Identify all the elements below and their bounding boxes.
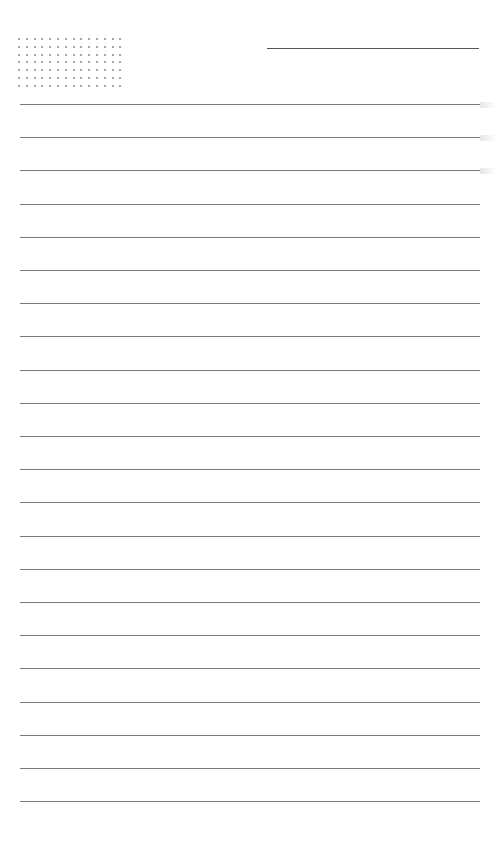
dot bbox=[119, 85, 121, 87]
dot bbox=[49, 46, 51, 48]
ruled-line bbox=[20, 801, 480, 802]
ruled-line bbox=[20, 270, 480, 271]
ruled-line bbox=[20, 768, 480, 769]
dot bbox=[96, 61, 98, 63]
dot bbox=[26, 46, 28, 48]
dot bbox=[57, 85, 59, 87]
dot bbox=[49, 54, 51, 56]
ruled-line bbox=[20, 569, 480, 570]
ruled-line bbox=[20, 469, 480, 470]
ruled-line bbox=[20, 204, 480, 205]
dot bbox=[34, 85, 36, 87]
dot bbox=[80, 46, 82, 48]
ruled-line bbox=[20, 436, 480, 437]
dot bbox=[41, 61, 43, 63]
dot bbox=[88, 46, 90, 48]
dot bbox=[80, 38, 82, 40]
dot bbox=[73, 85, 75, 87]
dot bbox=[34, 38, 36, 40]
dot bbox=[104, 54, 106, 56]
dot bbox=[18, 77, 20, 79]
dot bbox=[65, 54, 67, 56]
ruled-line bbox=[20, 536, 480, 537]
dot bbox=[34, 77, 36, 79]
dot bbox=[112, 77, 114, 79]
dot bbox=[49, 61, 51, 63]
dot bbox=[80, 85, 82, 87]
dot bbox=[49, 85, 51, 87]
dot bbox=[80, 69, 82, 71]
edge-shadow bbox=[480, 168, 497, 174]
dot bbox=[73, 77, 75, 79]
dot bbox=[41, 77, 43, 79]
dot bbox=[41, 69, 43, 71]
dot bbox=[49, 77, 51, 79]
dot bbox=[34, 46, 36, 48]
ruled-line bbox=[20, 502, 480, 503]
ruled-line bbox=[20, 702, 480, 703]
ruled-line bbox=[20, 303, 480, 304]
dot bbox=[88, 77, 90, 79]
dot bbox=[88, 38, 90, 40]
dot bbox=[34, 69, 36, 71]
dot bbox=[112, 38, 114, 40]
ruled-line bbox=[20, 170, 480, 171]
dot bbox=[18, 61, 20, 63]
dot bbox=[57, 61, 59, 63]
dot bbox=[65, 61, 67, 63]
title-line bbox=[267, 48, 479, 49]
dot bbox=[41, 54, 43, 56]
dot bbox=[26, 38, 28, 40]
dot bbox=[96, 69, 98, 71]
dot bbox=[104, 46, 106, 48]
dot bbox=[26, 69, 28, 71]
ruled-line bbox=[20, 137, 480, 138]
dot bbox=[65, 69, 67, 71]
dot bbox=[119, 38, 121, 40]
dot bbox=[65, 85, 67, 87]
dot bbox=[41, 85, 43, 87]
dot bbox=[112, 61, 114, 63]
dot bbox=[65, 38, 67, 40]
dot bbox=[49, 69, 51, 71]
dot bbox=[104, 77, 106, 79]
dot bbox=[57, 54, 59, 56]
dot bbox=[96, 54, 98, 56]
ruled-line bbox=[20, 635, 480, 636]
dot bbox=[49, 38, 51, 40]
dot bbox=[57, 46, 59, 48]
dot bbox=[96, 38, 98, 40]
ruled-line bbox=[20, 237, 480, 238]
dot bbox=[26, 77, 28, 79]
dot bbox=[96, 85, 98, 87]
dot bbox=[119, 69, 121, 71]
dot bbox=[18, 85, 20, 87]
dot bbox=[73, 54, 75, 56]
dot bbox=[57, 69, 59, 71]
edge-shadow bbox=[480, 102, 497, 108]
dot bbox=[73, 69, 75, 71]
dot bbox=[96, 77, 98, 79]
dot bbox=[34, 61, 36, 63]
dot bbox=[80, 54, 82, 56]
ruled-line bbox=[20, 668, 480, 669]
dot bbox=[41, 38, 43, 40]
dot bbox=[88, 85, 90, 87]
dot bbox=[112, 54, 114, 56]
dot bbox=[26, 54, 28, 56]
dot bbox=[96, 46, 98, 48]
dot bbox=[104, 85, 106, 87]
dot bbox=[41, 46, 43, 48]
dot bbox=[88, 54, 90, 56]
dot bbox=[80, 77, 82, 79]
edge-shadow bbox=[480, 135, 497, 141]
ruled-line bbox=[20, 104, 480, 105]
dot bbox=[18, 46, 20, 48]
dot bbox=[65, 46, 67, 48]
ruled-line bbox=[20, 336, 480, 337]
dot bbox=[73, 61, 75, 63]
dot bbox=[57, 77, 59, 79]
dot bbox=[18, 69, 20, 71]
dot bbox=[119, 61, 121, 63]
ruled-line bbox=[20, 403, 480, 404]
